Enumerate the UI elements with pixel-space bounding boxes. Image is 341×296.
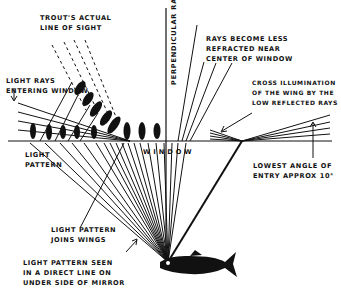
window-label: WINDOW bbox=[143, 147, 195, 157]
lowest-angle-ray bbox=[168, 141, 242, 262]
diagram-canvas: TROUT'S ACTUAL LINE OF SIGHT LIGHT RAYS … bbox=[0, 0, 341, 296]
arrow-icon bbox=[80, 143, 124, 228]
joins-wings-label: LIGHT PATTERN JOINS WINGS bbox=[51, 225, 116, 245]
trouts-line-of-sight-label: TROUT'S ACTUAL LINE OF SIGHT bbox=[40, 13, 111, 33]
rays-less-refracted-label: RAYS BECOME LESS REFRACTED NEAR CENTER O… bbox=[206, 34, 293, 64]
light-pattern-label: LIGHT PATTERN bbox=[25, 150, 62, 170]
light-rays-entering-label: LIGHT RAYS ENTERING WINDOW bbox=[6, 76, 88, 96]
lowest-angle-label: LOWEST ANGLE OF ENTRY APPROX 10° bbox=[253, 161, 334, 181]
reflected-rays bbox=[210, 115, 330, 141]
direct-line-label: LIGHT PATTERN SEEN IN A DIRECT LINE ON U… bbox=[23, 258, 125, 288]
cross-illumination-label: CROSS ILLUMINATION OF THE WING BY THE LO… bbox=[252, 78, 338, 108]
arrow-icon bbox=[126, 240, 137, 252]
perpendicular-rays-label: PERPENDICULAR RAYS bbox=[170, 0, 178, 85]
trout-icon bbox=[160, 250, 237, 277]
arrow-icon bbox=[222, 113, 252, 131]
